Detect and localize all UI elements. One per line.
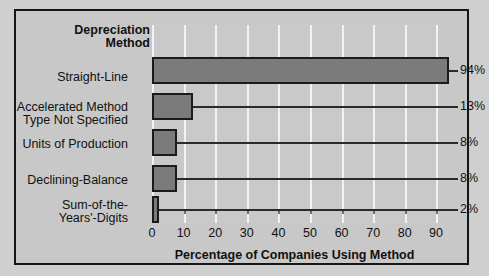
value-label-accelerated-method: 13% — [460, 100, 485, 113]
chart-title-line-2: Method — [42, 37, 150, 50]
gridline-60 — [342, 25, 344, 223]
category-label-line: Years'-Digits — [0, 212, 128, 225]
category-label-declining-balance: Declining-Balance — [0, 174, 128, 187]
gridline-70 — [373, 25, 375, 223]
category-label-line: Units of Production — [0, 138, 128, 151]
gridline-0 — [152, 25, 154, 223]
category-label-line: Type Not Specified — [0, 114, 128, 127]
gridline-30 — [247, 25, 249, 223]
gridline-50 — [310, 25, 312, 223]
leader-line-units-of-production — [177, 142, 458, 144]
leader-line-straight-line — [449, 70, 458, 72]
bar-units-of-production — [152, 129, 177, 156]
leader-line-declining-balance — [177, 178, 458, 180]
gridline-10 — [184, 25, 186, 223]
chart-frame-border: Depreciation Method 0 10 20 30 — [14, 9, 469, 265]
category-label-line: Declining-Balance — [0, 174, 128, 187]
gridline-40 — [278, 25, 280, 223]
category-label-line: Straight-Line — [0, 71, 128, 84]
category-label-sum-of-years-digits: Sum-of-the- Years'-Digits — [0, 199, 128, 225]
category-label-straight-line: Straight-Line — [0, 71, 128, 84]
bar-accelerated-method — [152, 93, 193, 120]
xtick-label-90: 90 — [416, 226, 456, 240]
category-label-accelerated-method: Accelerated Method Type Not Specified — [0, 101, 128, 127]
chart-figure: Depreciation Method 0 10 20 30 — [0, 0, 489, 276]
value-label-straight-line: 94% — [460, 64, 485, 77]
leader-line-sum-of-years-digits — [159, 209, 458, 211]
gridline-80 — [405, 25, 407, 223]
chart-title: Depreciation Method — [42, 24, 150, 50]
value-label-declining-balance: 8% — [460, 172, 478, 185]
bar-declining-balance — [152, 165, 177, 192]
bar-straight-line — [152, 57, 449, 84]
x-axis-title: Percentage of Companies Using Method — [152, 248, 437, 262]
gridline-20 — [215, 25, 217, 223]
leader-line-accelerated-method — [193, 106, 458, 108]
plot-area — [152, 25, 437, 223]
bar-sum-of-years-digits — [152, 196, 159, 223]
category-label-units-of-production: Units of Production — [0, 138, 128, 151]
value-label-units-of-production: 8% — [460, 136, 478, 149]
gridline-90 — [436, 25, 438, 223]
value-label-sum-of-years-digits: 2% — [460, 203, 478, 216]
